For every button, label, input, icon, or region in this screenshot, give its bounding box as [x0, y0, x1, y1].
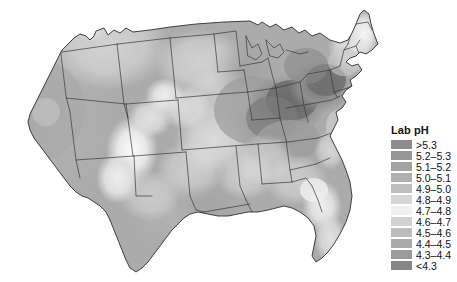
legend-label: 5.0–5.1	[416, 173, 451, 183]
legend-swatch	[391, 217, 412, 226]
legend-swatch	[391, 261, 412, 270]
us-map-panel	[0, 0, 382, 282]
legend-item: 4.7–4.8	[386, 205, 457, 216]
legend-title: Lab pH	[391, 124, 457, 136]
legend-label: 4.3–4.4	[416, 250, 451, 260]
legend-item: >5.3	[386, 139, 457, 150]
legend-item: 4.4–4.5	[386, 238, 457, 249]
legend-swatch	[391, 195, 412, 204]
legend-label: 5.2–5.3	[416, 151, 451, 161]
us-map[interactable]	[0, 0, 382, 282]
legend-swatch	[391, 140, 412, 149]
legend-swatch	[391, 228, 412, 237]
legend-swatch	[391, 151, 412, 160]
legend-label: 4.4–4.5	[416, 239, 451, 249]
legend-swatch	[391, 239, 412, 248]
legend-item: 5.0–5.1	[386, 172, 457, 183]
legend-label: 4.5–4.6	[416, 228, 451, 238]
legend-item: <4.3	[386, 260, 457, 271]
legend-swatch	[391, 184, 412, 193]
legend-swatch	[391, 206, 412, 215]
legend-item: 4.5–4.6	[386, 227, 457, 238]
ph-deposition-figure: Lab pH >5.35.2–5.35.1–5.25.0–5.14.9–5.04…	[0, 0, 457, 282]
legend-item: 4.9–5.0	[386, 183, 457, 194]
legend-swatch	[391, 173, 412, 182]
legend-label: 5.1–5.2	[416, 162, 451, 172]
legend-rows: >5.35.2–5.35.1–5.25.0–5.14.9–5.04.8–4.94…	[386, 139, 457, 271]
legend-swatch	[391, 250, 412, 259]
legend-label: <4.3	[416, 261, 437, 271]
legend-item: 4.3–4.4	[386, 249, 457, 260]
legend-item: 5.1–5.2	[386, 161, 457, 172]
legend-swatch	[391, 162, 412, 171]
legend-label: >5.3	[416, 140, 437, 150]
ph-surface-raster	[0, 0, 382, 282]
legend-label: 4.9–5.0	[416, 184, 451, 194]
legend-label: 4.6–4.7	[416, 217, 451, 227]
legend-label: 4.7–4.8	[416, 206, 451, 216]
legend-item: 5.2–5.3	[386, 150, 457, 161]
legend-item: 4.6–4.7	[386, 216, 457, 227]
legend-item: 4.8–4.9	[386, 194, 457, 205]
legend: Lab pH >5.35.2–5.35.1–5.25.0–5.14.9–5.04…	[386, 124, 457, 271]
legend-label: 4.8–4.9	[416, 195, 451, 205]
